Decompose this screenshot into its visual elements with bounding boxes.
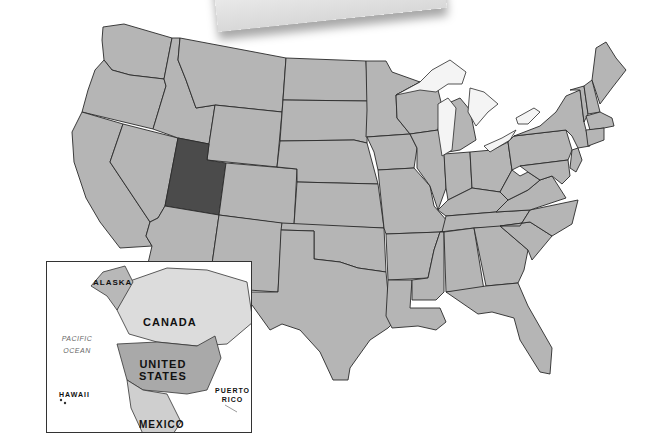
state-maine[interactable] xyxy=(592,42,626,104)
state-south-dakota[interactable] xyxy=(280,100,368,143)
state-iowa[interactable] xyxy=(367,134,417,170)
state-massachusetts[interactable] xyxy=(586,112,614,130)
north-america-inset: ALASKA CANADA UNITED STATES HAWAII PUERT… xyxy=(46,261,252,433)
inset-hawaii-islands xyxy=(60,399,62,401)
label-puerto-rico: PUERTO RICO xyxy=(215,386,250,404)
state-colorado[interactable] xyxy=(219,163,297,225)
label-hawaii: HAWAII xyxy=(59,391,90,398)
state-montana[interactable] xyxy=(178,38,286,112)
lake-ontario xyxy=(516,108,540,124)
label-canada: CANADA xyxy=(143,316,197,328)
lake-huron xyxy=(468,88,498,126)
label-united-states: UNITED STATES xyxy=(139,358,187,382)
label-pacific-ocean: PACIFIC OCEAN xyxy=(51,333,103,357)
state-new-jersey[interactable] xyxy=(570,148,582,172)
label-mexico: MEXICO xyxy=(139,419,184,430)
state-wyoming[interactable] xyxy=(207,105,282,167)
label-alaska: ALASKA xyxy=(93,278,132,287)
state-connecticut[interactable] xyxy=(586,128,604,146)
state-florida[interactable] xyxy=(446,283,552,374)
inset-puerto-rico-pointer xyxy=(225,405,237,412)
state-kansas[interactable] xyxy=(294,182,384,228)
state-north-dakota[interactable] xyxy=(283,58,368,101)
inset-canada xyxy=(117,268,252,346)
